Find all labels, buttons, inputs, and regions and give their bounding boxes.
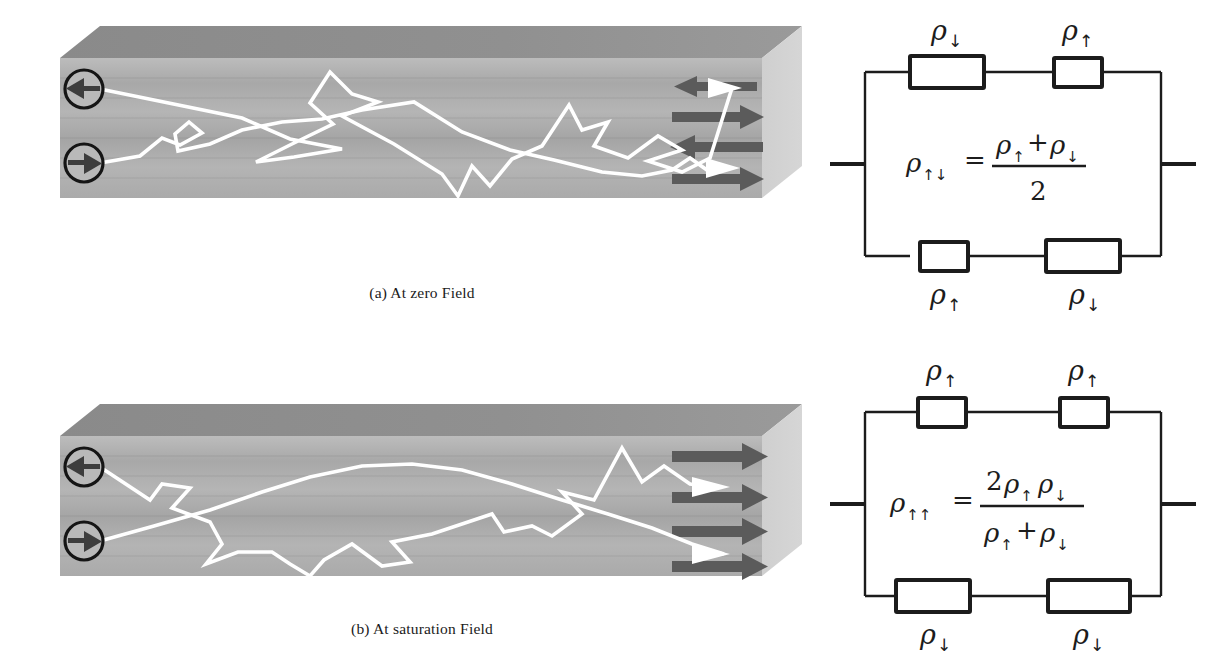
resistor-top-right-b (1060, 398, 1108, 427)
formula-equals: = (952, 485, 974, 515)
resistor-top-left-a (910, 56, 984, 88)
resistor-label-top-right-b: ρ↑ (1067, 355, 1099, 391)
slab-top-face (60, 26, 802, 58)
slab-figure-a (42, 26, 802, 226)
formula-b: ρ↑↑ = 2 ρ↑ ρ↓ ρ↑ + ρ↓ (889, 466, 1084, 554)
formula-numerator-1: ρ (995, 130, 1012, 160)
rho-subscript: ↑ (947, 295, 961, 314)
rho-subscript: ↓ (1090, 635, 1104, 654)
panel-caption-b: (b) At saturation Field (42, 620, 802, 638)
formula-numerator-1: ρ (1003, 469, 1020, 499)
resistor-label-bottom-right-b: ρ↓ (1072, 619, 1104, 654)
rho-glyph: ρ (1061, 15, 1078, 46)
spin-marker-down (65, 144, 103, 182)
formula-numerator-coefficient: 2 (986, 466, 1003, 496)
formula-numerator-2-subscript: ↓ (1066, 148, 1079, 166)
rho-glyph: ρ (925, 355, 942, 386)
formula-denominator-2-subscript: ↓ (1056, 536, 1069, 554)
formula-numerator-2: ρ (1037, 469, 1054, 499)
svg-text:ρ↓: ρ↓ (1049, 130, 1079, 166)
circuit-diagram-b: ρ↑ ρ↑ ρ↓ ρ↓ ρ↑↑ = 2 ρ↑ (818, 354, 1208, 654)
spin-marker-up (65, 448, 103, 486)
spin-marker-up (65, 70, 103, 108)
formula-lhs: ρ (905, 148, 922, 178)
formula-numerator-1-subscript: ↑ (1020, 487, 1033, 505)
rho-glyph: ρ (919, 619, 936, 650)
svg-text:ρ↑: ρ↑ (995, 130, 1025, 166)
rho-subscript: ↑ (1085, 371, 1099, 391)
formula-lhs: ρ (889, 488, 906, 518)
resistor-label-bottom-left-a: ρ↑ (929, 279, 961, 314)
resistor-top-right-a (1054, 58, 1102, 87)
resistor-label-top-right-a: ρ↑ (1061, 15, 1093, 51)
rho-subscript: ↑ (943, 371, 957, 391)
formula-denominator-1-subscript: ↑ (1000, 536, 1013, 554)
formula-denominator-operator: + (1016, 515, 1038, 545)
formula-a: ρ↑↓ = ρ↑ + ρ↓ 2 (905, 127, 1086, 206)
formula-numerator-operator: + (1027, 127, 1049, 157)
formula-lhs-subscript: ↑↑ (906, 506, 931, 524)
slab-figure-b (42, 404, 802, 604)
formula-denominator-2: ρ (1039, 518, 1056, 548)
slab-top-face (60, 404, 802, 436)
formula-numerator-1-subscript: ↑ (1012, 148, 1025, 166)
formula-denominator-1: ρ (983, 518, 1000, 548)
svg-text:ρ↓: ρ↓ (1037, 469, 1067, 505)
rho-subscript: ↑ (1079, 31, 1093, 51)
rho-subscript: ↓ (1086, 295, 1100, 314)
spin-marker-down (65, 522, 103, 560)
rho-glyph: ρ (1067, 355, 1084, 386)
formula-denominator: 2 (1030, 176, 1047, 206)
formula-numerator-2: ρ (1049, 130, 1066, 160)
panel-caption-a: (a) At zero Field (42, 284, 802, 302)
resistor-label-bottom-right-a: ρ↓ (1068, 279, 1100, 314)
resistor-bottom-right-a (1046, 240, 1120, 272)
slab-front-face (60, 58, 762, 198)
slab-front-face (60, 436, 762, 576)
svg-text:ρ↑↑: ρ↑↑ (889, 488, 931, 524)
formula-equals: = (964, 145, 986, 175)
svg-text:ρ↑: ρ↑ (983, 518, 1013, 554)
rho-subscript: ↓ (948, 31, 962, 51)
rho-glyph: ρ (929, 279, 946, 310)
resistor-bottom-left-b (896, 580, 970, 612)
svg-text:ρ↓: ρ↓ (1039, 518, 1069, 554)
svg-text:ρ↑: ρ↑ (1003, 469, 1033, 505)
formula-lhs-subscript: ↑↓ (922, 166, 947, 184)
panel-zero-field: (a) At zero Field ρ↓ ρ↑ ρ↑ (0, 0, 1216, 332)
svg-text:ρ↑↓: ρ↑↓ (905, 148, 947, 184)
resistor-bottom-right-b (1048, 580, 1130, 612)
resistor-top-left-b (918, 398, 966, 427)
rho-glyph: ρ (930, 15, 947, 46)
rho-glyph: ρ (1068, 279, 1085, 310)
resistor-label-top-left-b: ρ↑ (925, 355, 957, 391)
panel-saturation-field: (b) At saturation Field ρ↑ ρ↑ ρ↓ ρ↓ (0, 332, 1216, 664)
rho-subscript: ↓ (937, 635, 951, 654)
circuit-diagram-a: ρ↓ ρ↑ ρ↑ ρ↓ ρ↑↓ = ρ↑ + (818, 14, 1208, 314)
resistor-label-top-left-a: ρ↓ (930, 15, 962, 51)
circuit-wire-loop-b (865, 412, 1161, 596)
formula-numerator-2-subscript: ↓ (1054, 487, 1067, 505)
rho-glyph: ρ (1072, 619, 1089, 650)
resistor-label-bottom-left-b: ρ↓ (919, 619, 951, 654)
resistor-bottom-left-a (920, 242, 968, 271)
